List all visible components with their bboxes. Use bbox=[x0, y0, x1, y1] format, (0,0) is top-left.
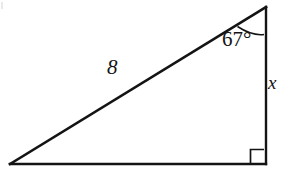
triangle-canvas bbox=[0, 0, 284, 173]
angle-measure-label: 67° bbox=[222, 29, 251, 50]
hypotenuse-length-label: 8 bbox=[107, 57, 118, 78]
triangle-figure: 8 x 67° bbox=[0, 0, 284, 173]
vertical-side-length-label: x bbox=[268, 73, 276, 92]
right-angle-marker bbox=[251, 150, 265, 164]
scan-artifact bbox=[1, 2, 3, 9]
